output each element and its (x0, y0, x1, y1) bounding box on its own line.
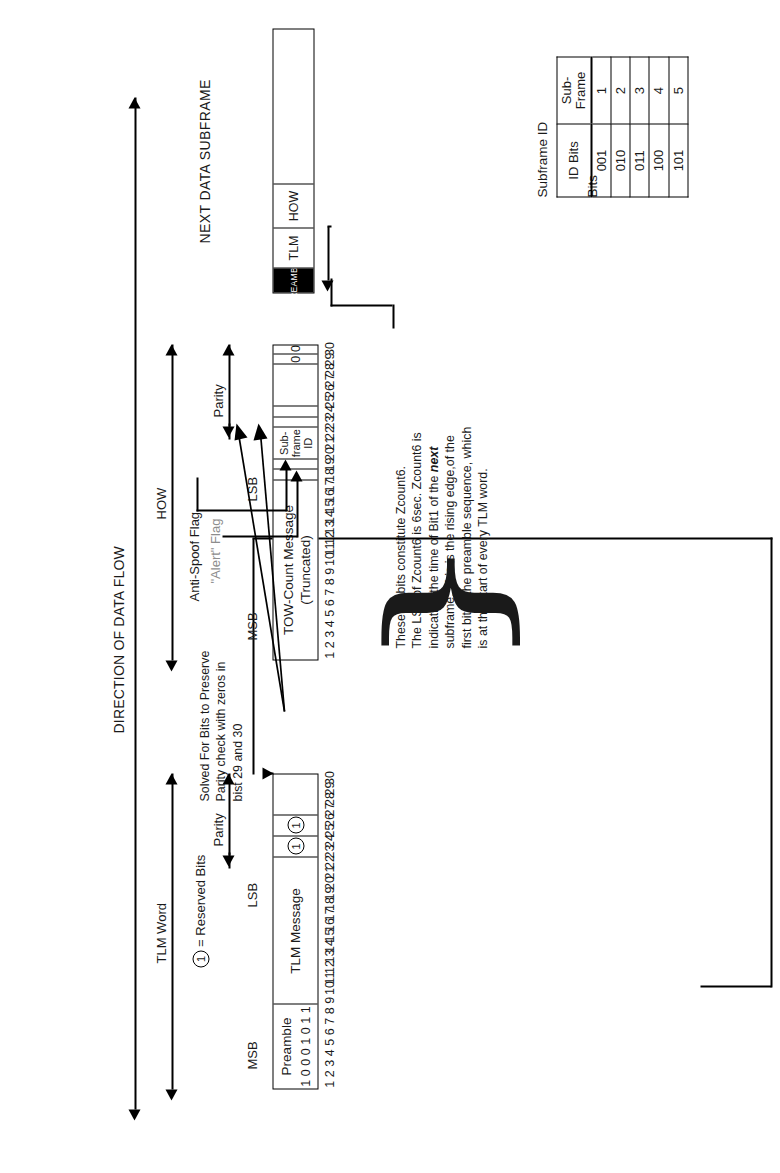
tlm-reserved-bit-23-cell: 1 (273, 836, 317, 857)
tlm-bitnum-16: 16 (322, 921, 336, 932)
how-bitnum-10: 10 (322, 555, 336, 566)
tlm-bitnum-29: 29 (322, 785, 336, 796)
table-row: 001 1 (591, 57, 611, 197)
tlm-parity-cell (273, 772, 317, 815)
tlm-bitnum-21: 21 (322, 869, 336, 880)
next-subframe-preamble-cell: PREAMBLE (273, 268, 313, 292)
tlm-bitnum-7: 7 (322, 1016, 336, 1027)
how-bitnum-19: 19 (322, 461, 336, 472)
tlm-bitnum-4: 4 (322, 1047, 336, 1058)
tlm-word-arrow-left (165, 1089, 177, 1100)
tlm-bitnum-27: 27 (322, 806, 336, 817)
how-bitnum-6: 6 (322, 597, 336, 608)
diagram-rotation-wrapper: DIRECTION OF DATA FLOW TLM Word 1 = Rese… (0, 0, 780, 1173)
how-bitnum-30: 30 (322, 345, 336, 356)
gps-tlm-how-diagram: DIRECTION OF DATA FLOW TLM Word 1 = Rese… (0, 0, 780, 1173)
how-bitnum-4: 4 (322, 618, 336, 629)
tlm-bitnum-6: 6 (322, 1026, 336, 1037)
preamble-bit-6: 0 (298, 1025, 312, 1036)
tlm-reserved-bit-24-cell: 1 (273, 815, 317, 836)
how-parity-span-line (228, 344, 230, 426)
direction-of-data-flow-line (134, 97, 136, 1109)
tlm-word-span-line (171, 773, 173, 1089)
solved-bits-arrows (232, 415, 307, 715)
cell-subframe-1: 1 (591, 57, 611, 124)
tlm-bitnum-28: 28 (322, 795, 336, 806)
preamble-bit-3: 0 (298, 1057, 312, 1068)
how-bitnum-18: 18 (322, 471, 336, 482)
cell-id-bits-3: 011 (630, 124, 649, 197)
tlm-msb-label: MSB (244, 1041, 259, 1069)
tlm-bitnum-19: 19 (322, 890, 336, 901)
cell-id-bits-4: 100 (649, 124, 668, 197)
subframe-id-table: ID Bits Sub-Frame 001 1 010 2 011 3 100 … (556, 56, 688, 197)
direction-of-data-flow-arrow-right (128, 97, 140, 108)
how-bitnum-26: 26 (322, 387, 336, 398)
table-row: 101 5 (668, 57, 687, 197)
cell-id-bits-5: 101 (668, 124, 687, 197)
how-bitnum-11: 11 (322, 545, 336, 556)
how-bitnum-9: 9 (322, 566, 336, 577)
tlm-bitnum-25: 25 (322, 827, 336, 838)
how-bitnum-16: 16 (322, 492, 336, 503)
table-header-row: ID Bits Sub-Frame (557, 57, 591, 197)
direction-of-data-flow-label: DIRECTION OF DATA FLOW (110, 546, 127, 733)
how-bitnum-3: 3 (322, 629, 336, 640)
how-bitnum-27: 27 (322, 377, 336, 388)
tlm-bitnum-5: 5 (322, 1037, 336, 1048)
tlm-bitnum-20: 20 (322, 879, 336, 890)
tlm-bitnum-14: 14 (322, 942, 336, 953)
tlm-bitnum-9: 9 (322, 995, 336, 1006)
preamble-bit-1: 1 (298, 1078, 312, 1089)
tlm-bitnum-12: 12 (322, 963, 336, 974)
how-bitnum-5: 5 (322, 608, 336, 619)
how-bitnum-20: 20 (322, 450, 336, 461)
how-bitnum-29: 29 (322, 356, 336, 367)
how-bitnum-7: 7 (322, 587, 336, 598)
cell-subframe-5: 5 (668, 57, 687, 124)
how-bitnum-15: 15 (322, 503, 336, 514)
next-data-subframe-title: NEXT DATA SUBFRAME (196, 79, 213, 243)
table-row: 010 2 (610, 57, 629, 197)
tlm-bitnum-26: 26 (322, 816, 336, 827)
preamble-bit-4: 0 (298, 1046, 312, 1057)
tlm-bitnum-10: 10 (322, 984, 336, 995)
how-bitnum-2: 2 (322, 639, 336, 650)
preamble-bit-8: 1 (298, 1004, 312, 1015)
how-zero-bit-29-cell: 0 (273, 354, 317, 365)
tlm-bitnum-23: 23 (322, 848, 336, 859)
reserved-bit-23-symbol-icon: 1 (287, 838, 304, 855)
how-zero-bit-30-cell: 0 (273, 343, 317, 354)
tlm-preamble-bit-values: 1 0 0 0 1 0 1 1 (298, 1004, 312, 1088)
reserved-bit-24-symbol-icon: 1 (287, 817, 304, 834)
cell-id-bits-2: 010 (610, 124, 629, 197)
tlm-bitnum-13: 13 (322, 953, 336, 964)
reserved-bit-symbol-icon: 1 (192, 950, 209, 967)
how-parity-cell (273, 365, 317, 407)
direction-of-data-flow-arrow-left (128, 1109, 140, 1120)
preamble-bit-7: 1 (298, 1015, 312, 1026)
tlm-parity-label: Parity (210, 808, 225, 851)
tlm-bitnum-3: 3 (322, 1058, 336, 1069)
how-bitnum-25: 25 (322, 398, 336, 409)
tow-note-text: These 17 bits constitute Zcount6.The LSB… (392, 318, 490, 648)
how-label: HOW (153, 481, 168, 525)
next-subframe-tlm-cell: TLM (273, 228, 313, 268)
tlm-bitnum-15: 15 (322, 932, 336, 943)
how-bitnum-13: 13 (322, 524, 336, 535)
alert-flag-label: "Alert" Flag (207, 518, 222, 583)
how-bitnum-28: 28 (322, 366, 336, 377)
tlm-word-bar: Preamble 1 0 0 0 1 0 1 1 TLM Message 1 1 (272, 773, 318, 1089)
cell-subframe-3: 3 (630, 57, 649, 124)
tlm-lsb-label: LSB (244, 882, 259, 907)
how-bitnum-21: 21 (322, 440, 336, 451)
tlm-word-arrow-right (165, 773, 177, 784)
header-sub-frame: Sub-Frame (557, 57, 591, 124)
tlm-word-label: TLM Word (153, 897, 168, 969)
tlm-bitnum-11: 11 (322, 974, 336, 985)
table-row: 011 3 (630, 57, 649, 197)
table-row: 100 4 (649, 57, 668, 197)
cell-subframe-2: 2 (610, 57, 629, 124)
how-bitnum-17: 17 (322, 482, 336, 493)
how-bitnum-1: 1 (322, 650, 336, 661)
